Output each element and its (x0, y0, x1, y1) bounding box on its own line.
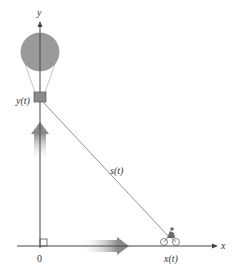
y-axis-label: y (36, 7, 42, 18)
distance-line (42, 101, 170, 238)
balloon-height-label: y(t) (15, 95, 31, 107)
bicycle-position-label: x(t) (163, 253, 179, 265)
hot-air-balloon-icon (21, 33, 59, 102)
distance-label: s(t) (110, 165, 124, 177)
bicycle-icon (161, 227, 180, 245)
right-angle-marker (40, 239, 47, 246)
x-axis-label: x (220, 240, 226, 251)
related-rates-diagram: y x 0 y(t) s(t) x(t) (0, 0, 234, 276)
origin-label: 0 (37, 253, 42, 264)
